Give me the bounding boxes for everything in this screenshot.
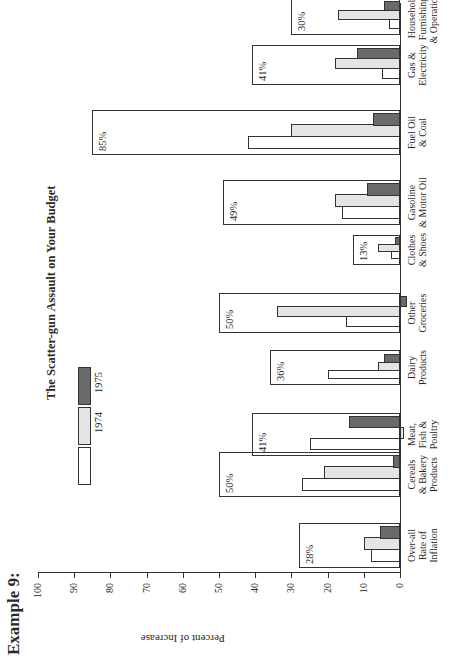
bar-series-1 <box>391 251 400 259</box>
y-tick-label: 20 <box>322 583 333 603</box>
y-tick-label: 50 <box>213 583 224 603</box>
bar-series-1 <box>382 68 400 79</box>
y-tick <box>74 573 75 578</box>
bar-1974 <box>378 362 400 371</box>
bar-1974 <box>335 58 400 69</box>
chart-stage: Example 9: The Scatter-gun Assault on Yo… <box>0 0 458 665</box>
bar-1974 <box>277 306 400 317</box>
bar-1974 <box>291 124 400 137</box>
cumulative-percent-label: 49% <box>228 202 239 221</box>
bar-series-1 <box>310 438 401 450</box>
category-label: Over-allRate ofInflation <box>406 511 439 581</box>
legend-swatch <box>78 407 91 445</box>
category-label: HouseholdFurnishings& Operations <box>406 0 439 52</box>
category-label-line: & Operations <box>428 0 439 52</box>
bar-series-1 <box>346 316 400 327</box>
bar-1975 <box>384 1 400 11</box>
bar-1975 <box>393 455 400 468</box>
category-label-line: Groceries <box>417 278 428 348</box>
bar-series-1 <box>328 370 400 379</box>
plot-area: 0102030405060708090100Percent of Increas… <box>0 0 458 665</box>
y-tick-label: 0 <box>394 583 405 603</box>
x-baseline <box>400 3 401 573</box>
y-tick-label: 60 <box>177 583 188 603</box>
cumulative-percent-label: 36% <box>275 362 286 381</box>
category-label: Gasoline& Motor Oil <box>406 168 428 238</box>
category-label-line: Poultry <box>428 400 439 470</box>
category-label-line: Inflation <box>428 511 439 581</box>
bar-series-1 <box>248 136 400 149</box>
y-tick <box>255 573 256 578</box>
bar-1974 <box>400 427 404 439</box>
y-tick <box>400 573 401 578</box>
category-label-line: Furnishings <box>417 0 428 52</box>
cumulative-percent-label: 30% <box>296 12 307 31</box>
category-label-line: Over-all <box>406 511 417 581</box>
cumulative-percent-label: 50% <box>224 474 235 493</box>
cumulative-percent-label: 50% <box>224 310 235 329</box>
y-tick <box>291 573 292 578</box>
y-tick <box>38 573 39 578</box>
y-axis-label: Percent of Increase <box>141 633 225 645</box>
category-label-line: Gasoline <box>406 168 417 238</box>
bar-1974 <box>335 194 400 207</box>
bar-1975 <box>395 237 400 245</box>
bar-1974 <box>338 10 400 20</box>
category-label: Meat,Fish &Poultry <box>406 400 439 470</box>
cumulative-percent-label: 28% <box>304 545 315 564</box>
category-label-line: Fuel Oil <box>406 98 417 168</box>
legend-label: 1975 <box>93 372 104 393</box>
category-label-line: & Coal <box>417 98 428 168</box>
y-tick <box>364 573 365 578</box>
y-tick-label: 90 <box>68 583 79 603</box>
category-label-line: & Motor Oil <box>417 168 428 238</box>
legend-swatch <box>78 447 91 485</box>
category-label-line: Meat, <box>406 400 417 470</box>
bar-series-1 <box>302 478 400 491</box>
cumulative-percent-label: 13% <box>358 242 369 261</box>
y-tick <box>183 573 184 578</box>
bar-series-1 <box>371 549 400 562</box>
bar-1974 <box>378 244 400 252</box>
y-tick-label: 30 <box>285 583 296 603</box>
y-tick <box>110 573 111 578</box>
bar-1975 <box>367 183 400 196</box>
bar-1975 <box>373 113 400 126</box>
cumulative-percent-label: 41% <box>257 62 268 81</box>
bar-series-1 <box>389 19 400 29</box>
y-tick-label: 100 <box>32 583 43 603</box>
category-label-line: Rate of <box>417 511 428 581</box>
category-label: Fuel Oil& Coal <box>406 98 428 168</box>
y-tick <box>219 573 220 578</box>
legend-label: 1974 <box>93 412 104 433</box>
y-tick-label: 70 <box>141 583 152 603</box>
bar-1974 <box>364 537 400 550</box>
y-tick <box>328 573 329 578</box>
bar-series-1 <box>342 206 400 219</box>
bar-1975 <box>349 416 400 428</box>
y-tick-label: 80 <box>104 583 115 603</box>
cumulative-percent-label: 85% <box>97 132 108 151</box>
y-tick-label: 40 <box>249 583 260 603</box>
bar-1975 <box>380 526 400 539</box>
bar-1975 <box>357 48 400 59</box>
category-label-line: Fish & <box>417 400 428 470</box>
cumulative-percent-label: 41% <box>257 433 268 452</box>
y-tick-label: 10 <box>358 583 369 603</box>
y-tick <box>147 573 148 578</box>
bar-1975 <box>384 354 400 363</box>
category-label: OtherGroceries <box>406 278 428 348</box>
category-label-line: Household <box>406 0 417 52</box>
category-label-line: Other <box>406 278 417 348</box>
legend-swatch <box>78 367 91 405</box>
bar-1974 <box>324 466 400 479</box>
